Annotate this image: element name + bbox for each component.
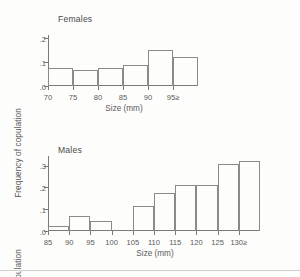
histogram-bar [218, 164, 239, 231]
histogram-bar [175, 185, 196, 231]
y-axis-label-males: Frequency of copulation [14, 249, 23, 277]
y-tick-label: .0 [40, 82, 46, 91]
x-tick-label: 85 [119, 93, 127, 102]
y-tick-label: .2 [40, 34, 46, 43]
x-tick-mark [123, 86, 124, 90]
x-tick-label: 100 [105, 238, 118, 247]
histogram-bar [48, 226, 69, 231]
histogram-bar [154, 193, 175, 231]
y-tick-label: .2 [40, 183, 46, 192]
histogram-bar [133, 206, 154, 231]
x-tick-mark [90, 231, 91, 235]
y-tick-label: .3 [40, 162, 46, 171]
chart-panel-males: Frequency of copulation Males .0.1.2.385… [0, 137, 300, 265]
x-tick-label: 120 [190, 238, 203, 247]
histogram-bar [196, 185, 217, 231]
x-tick-mark [73, 86, 74, 90]
x-tick-mark [239, 231, 240, 235]
y-tick-label: .0 [40, 227, 46, 236]
x-tick-mark [148, 86, 149, 90]
x-tick-label: 90 [65, 238, 73, 247]
x-tick-mark [133, 231, 134, 235]
x-tick-mark [218, 231, 219, 235]
x-tick-mark [196, 231, 197, 235]
x-tick-label: 85 [44, 238, 52, 247]
histogram-bar [73, 70, 98, 86]
x-tick-label: 110 [148, 238, 160, 247]
x-tick-mark [175, 231, 176, 235]
x-tick-mark [154, 231, 155, 235]
y-axis-line-males [48, 156, 49, 231]
x-tick-mark [48, 86, 49, 90]
x-tick-label: 115 [169, 238, 181, 247]
histogram-bar [98, 68, 123, 86]
histogram-bar [148, 50, 173, 86]
x-tick-mark [69, 231, 70, 235]
page-edge-line [0, 270, 300, 271]
histogram-bar [123, 65, 148, 86]
y-tick-label: .1 [40, 58, 46, 67]
x-tick-label: 90 [144, 93, 152, 102]
histogram-bar [69, 216, 90, 231]
x-axis-label-females: Size (mm) [105, 104, 142, 113]
x-axis-label-males: Size (mm) [136, 249, 173, 258]
x-tick-label: 105 [126, 238, 139, 247]
x-tick-label: 80 [94, 93, 102, 102]
histogram-bar [48, 68, 73, 86]
chart-title-males: Males [58, 145, 82, 155]
x-tick-label: 95 [86, 238, 94, 247]
plot-area-females: .0.1.2707580859095≥ [48, 38, 198, 86]
x-tick-mark [48, 231, 49, 235]
x-tick-label: 130≥ [230, 238, 247, 247]
histogram-bar [90, 221, 111, 231]
x-tick-label: 95≥ [167, 93, 180, 102]
x-tick-label: 125 [211, 238, 224, 247]
histogram-bar [173, 57, 198, 86]
y-tick-label: .1 [40, 205, 46, 214]
figure-page: Frequency of copulation Females .0.1.270… [0, 0, 300, 277]
chart-title-females: Females [58, 14, 92, 24]
x-tick-label: 70 [44, 93, 52, 102]
x-tick-mark [98, 86, 99, 90]
chart-panel-females: Frequency of copulation Females .0.1.270… [0, 0, 300, 125]
plot-area-males: .0.1.2.3859095100105110115120125130≥ [48, 159, 260, 231]
x-tick-mark [112, 231, 113, 235]
x-tick-mark [173, 86, 174, 90]
histogram-bar [239, 161, 260, 231]
x-tick-label: 75 [69, 93, 77, 102]
